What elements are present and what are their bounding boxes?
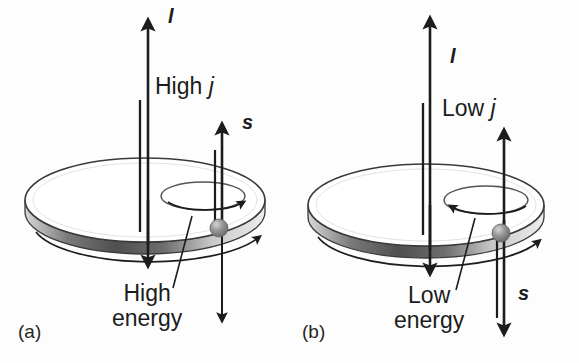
energy-label-line2-a: energy	[112, 306, 182, 331]
quantum-number-text-b: Low j	[442, 95, 496, 121]
panel-b: l s Low j Low energy (b)	[290, 0, 579, 363]
quantum-number-text-a: High j	[155, 73, 214, 99]
energy-label-line1-a: High	[112, 281, 182, 306]
quantum-number-label-a: High j	[155, 74, 214, 99]
spin-vector-label-a: s	[242, 112, 253, 134]
energy-label-line2-b: energy	[394, 308, 464, 333]
orbital-vector-label-b: l	[450, 46, 456, 68]
spin-vector-label-b: s	[518, 283, 529, 305]
panel-caption-a: (a)	[18, 322, 41, 343]
electron-bead-a	[210, 219, 228, 237]
energy-label-b: Low energy	[394, 283, 464, 333]
orbital-vector-label-a: l	[168, 6, 174, 28]
panel-a: l s High j High energy (a)	[0, 0, 289, 363]
orbital-plane-disk-b	[308, 164, 544, 258]
spin-orbit-coupling-figure: l s High j High energy (a)	[0, 0, 579, 363]
quantum-number-label-b: Low j	[442, 96, 496, 121]
electron-bead-b	[492, 224, 510, 242]
panel-caption-b: (b)	[302, 322, 325, 343]
energy-label-line1-b: Low	[394, 283, 464, 308]
energy-label-a: High energy	[112, 281, 182, 331]
orbital-plane-disk-a	[25, 158, 265, 254]
